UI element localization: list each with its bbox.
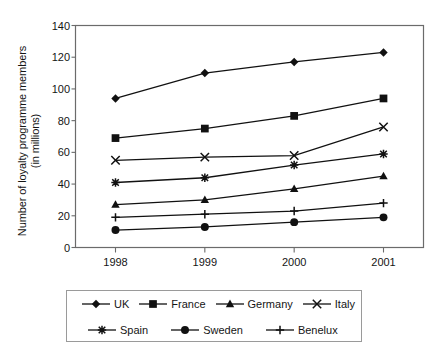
data-point-marker-diamond bbox=[379, 48, 387, 56]
data-point-marker-circle bbox=[181, 326, 189, 334]
data-point-marker-circle bbox=[380, 213, 388, 221]
data-point-marker-plus bbox=[379, 199, 387, 207]
chart-legend: UKFranceGermanyItaly SpainSwedenBenelux bbox=[66, 290, 362, 342]
series-line bbox=[116, 217, 384, 230]
legend-symbol-square bbox=[138, 298, 168, 310]
line-chart: Number of loyalty programme members (in … bbox=[0, 0, 432, 363]
data-point-marker-square bbox=[380, 95, 388, 103]
data-point-marker-square bbox=[290, 112, 298, 120]
data-series-layer bbox=[111, 48, 387, 234]
data-point-marker-asterisk bbox=[201, 174, 209, 182]
legend-item-germany[interactable]: Germany bbox=[215, 298, 293, 310]
data-point-marker-triangle bbox=[379, 172, 387, 180]
legend-label: Sweden bbox=[203, 324, 243, 336]
legend-row: SpainSwedenBenelux bbox=[67, 317, 383, 343]
legend-item-france[interactable]: France bbox=[138, 298, 205, 310]
series-france bbox=[112, 95, 388, 142]
data-point-marker-circle bbox=[112, 226, 120, 234]
data-point-marker-diamond bbox=[92, 300, 100, 308]
legend-item-benelux[interactable]: Benelux bbox=[265, 324, 338, 336]
legend-item-uk[interactable]: UK bbox=[81, 298, 129, 310]
series-line bbox=[116, 98, 384, 138]
legend-symbol-plus bbox=[265, 324, 295, 336]
legend-item-sweden[interactable]: Sweden bbox=[170, 324, 243, 336]
legend-symbol-triangle bbox=[215, 298, 245, 310]
data-point-marker-plus bbox=[201, 210, 209, 218]
data-point-marker-diamond bbox=[290, 58, 298, 66]
legend-symbol-circle bbox=[170, 324, 200, 336]
data-point-marker-asterisk bbox=[111, 178, 119, 186]
legend-symbol-diamond bbox=[81, 298, 111, 310]
series-line bbox=[116, 52, 384, 98]
data-point-marker-asterisk bbox=[379, 150, 387, 158]
legend-item-italy[interactable]: Italy bbox=[302, 298, 355, 310]
data-point-marker-diamond bbox=[201, 69, 209, 77]
legend-item-spain[interactable]: Spain bbox=[87, 324, 148, 336]
series-uk bbox=[111, 48, 387, 102]
data-point-marker-cross bbox=[379, 123, 387, 131]
legend-label: Italy bbox=[335, 298, 355, 310]
data-point-marker-square bbox=[149, 300, 157, 308]
data-point-marker-circle bbox=[201, 223, 209, 231]
data-point-marker-circle bbox=[290, 218, 298, 226]
data-point-marker-square bbox=[112, 134, 120, 142]
data-point-marker-diamond bbox=[111, 94, 119, 102]
series-line bbox=[116, 203, 384, 217]
data-point-marker-plus bbox=[290, 207, 298, 215]
series-germany bbox=[111, 172, 387, 208]
series-line bbox=[116, 127, 384, 160]
legend-label: UK bbox=[114, 298, 129, 310]
legend-symbol-cross bbox=[302, 298, 332, 310]
legend-label: Germany bbox=[248, 298, 293, 310]
legend-symbol-asterisk bbox=[87, 324, 117, 336]
data-point-marker-asterisk bbox=[98, 326, 106, 334]
legend-label: Benelux bbox=[298, 324, 338, 336]
legend-label: France bbox=[171, 298, 205, 310]
legend-label: Spain bbox=[120, 324, 148, 336]
data-point-marker-square bbox=[201, 125, 209, 133]
data-point-marker-plus bbox=[111, 213, 119, 221]
data-point-marker-asterisk bbox=[290, 161, 298, 169]
legend-row: UKFranceGermanyItaly bbox=[67, 291, 377, 317]
data-point-marker-plus bbox=[276, 326, 284, 334]
